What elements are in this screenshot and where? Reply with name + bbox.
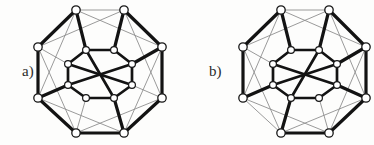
graph-edge-bold xyxy=(281,98,291,133)
graph-edge-bold xyxy=(132,47,162,64)
graph-node-inner xyxy=(83,95,90,102)
graph-node-inner xyxy=(288,95,295,102)
graph-node-outer xyxy=(277,129,285,137)
graph-edge-thin xyxy=(319,98,329,133)
graph-node-outer xyxy=(34,94,42,102)
graph-edge-bold xyxy=(38,98,76,133)
graph-node-inner xyxy=(270,61,277,68)
graph-node-outer xyxy=(239,43,247,51)
tesseract-graph-b xyxy=(187,0,374,145)
graph-node-outer xyxy=(120,6,128,14)
graph-node-outer xyxy=(72,129,80,137)
graph-edge-bold xyxy=(124,10,162,47)
graph-node-inner xyxy=(65,61,72,68)
graph-node-inner xyxy=(111,47,118,54)
graph-node-inner xyxy=(129,61,136,68)
graph-edge-thin xyxy=(243,47,273,64)
graph-edge-bold xyxy=(124,98,162,133)
graph-node-inner xyxy=(334,61,341,68)
graph-node-outer xyxy=(158,94,166,102)
graph-edge-bold xyxy=(329,10,366,47)
graph-node-inner xyxy=(65,82,72,89)
graph-node-outer xyxy=(277,6,285,14)
tesseract-graph-a xyxy=(0,0,187,145)
graph-node-outer xyxy=(325,129,333,137)
graph-node-inner xyxy=(334,82,341,89)
graph-node-inner xyxy=(316,95,323,102)
graph-node-outer xyxy=(158,43,166,51)
graph-edge-thin xyxy=(76,98,86,133)
graph-node-outer xyxy=(239,94,247,102)
graph-node-outer xyxy=(120,129,128,137)
graph-node-outer xyxy=(34,43,42,51)
graph-edge-bold xyxy=(243,10,281,47)
graph-node-inner xyxy=(270,82,277,89)
panel-b: b) xyxy=(187,0,374,145)
graph-node-outer xyxy=(325,6,333,14)
graph-node-inner xyxy=(83,47,90,54)
graph-node-inner xyxy=(316,47,323,54)
graph-node-outer xyxy=(362,94,370,102)
graph-node-inner xyxy=(288,47,295,54)
graph-node-inner xyxy=(129,82,136,89)
graph-edge-bold xyxy=(337,47,366,64)
graph-edge-thin xyxy=(243,98,281,133)
graph-edge-thin xyxy=(38,47,68,64)
graph-edge-bold xyxy=(114,98,124,133)
graph-edge-bold xyxy=(38,10,76,47)
graph-edge-thin xyxy=(281,98,366,133)
graph-node-outer xyxy=(72,6,80,14)
panel-a: a) xyxy=(0,0,187,145)
graph-node-inner xyxy=(111,95,118,102)
graph-node-outer xyxy=(362,43,370,51)
graph-edge-bold xyxy=(329,98,366,133)
figure-root: a) b) xyxy=(0,0,374,145)
